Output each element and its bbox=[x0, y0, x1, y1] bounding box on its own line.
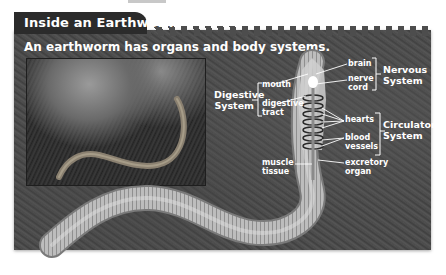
label-mouth: mouth bbox=[262, 80, 291, 89]
label-hearts: hearts bbox=[345, 115, 374, 124]
label-circulatory-system: Circulatory System bbox=[383, 119, 433, 141]
label-digestive-tract: digestive tract bbox=[262, 99, 302, 117]
label-blood-vessels: blood vessels bbox=[345, 133, 377, 151]
earthworm-diagram bbox=[0, 0, 446, 275]
label-muscle-tissue: muscle tissue bbox=[262, 158, 294, 176]
label-nervous-system: Nervous System bbox=[383, 64, 427, 86]
label-brain: brain bbox=[348, 59, 372, 68]
label-excretory-organ: excretory organ bbox=[345, 158, 385, 176]
label-digestive-system: Digestive System bbox=[214, 89, 254, 111]
label-nerve-cord: nerve cord bbox=[348, 74, 376, 92]
